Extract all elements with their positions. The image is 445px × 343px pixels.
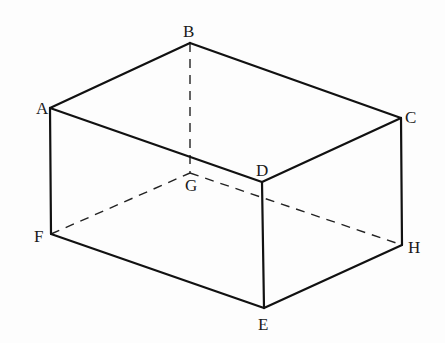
vertex-label-g: G [185, 176, 197, 195]
vertex-label-c: C [405, 108, 416, 127]
edge-af [50, 108, 51, 234]
rectangular-prism-diagram: ABCDEFGH [0, 0, 445, 343]
vertex-label-d: D [256, 161, 268, 180]
hidden-edge-fg [51, 173, 190, 234]
edge-ab [50, 43, 190, 108]
edge-fe [51, 234, 264, 308]
vertex-label-a: A [36, 99, 49, 118]
vertex-label-e: E [258, 315, 268, 334]
edge-eh [264, 245, 402, 308]
vertex-label-f: F [34, 227, 43, 246]
visible-edges-group [50, 43, 402, 308]
edge-de [262, 182, 264, 308]
vertex-label-b: B [183, 22, 194, 41]
edge-ch [401, 118, 402, 245]
edge-da [50, 108, 262, 182]
vertex-label-h: H [408, 238, 420, 257]
hidden-edges-group [51, 43, 402, 245]
vertex-labels-group: ABCDEFGH [34, 22, 420, 334]
edge-bc [190, 43, 401, 118]
edge-cd [262, 118, 401, 182]
hidden-edge-gh [190, 173, 402, 245]
diagram-canvas: ABCDEFGH [0, 0, 445, 343]
